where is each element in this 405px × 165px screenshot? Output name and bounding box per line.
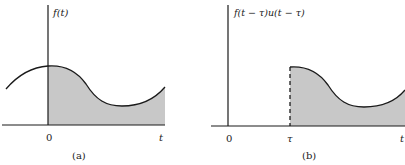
panel-b-y-label: f(t − τ)u(t − τ) [233, 7, 305, 18]
figure: f(t) 0 t (a) f(t − τ)u(t − τ) 0 τ t (b) [0, 0, 405, 165]
panel-b: f(t − τ)u(t − τ) 0 τ t (b) [211, 5, 405, 161]
panel-b-tick-tau: τ [287, 133, 293, 144]
panel-b-caption: (b) [302, 150, 316, 161]
panel-b-tick-zero: 0 [226, 133, 232, 144]
panel-a-shaded-area [48, 66, 165, 125]
panel-a-x-label: t [159, 132, 164, 143]
panel-a-caption: (a) [72, 150, 86, 161]
panel-b-shaded-area [290, 67, 405, 126]
panel-a-y-label: f(t) [52, 7, 69, 18]
panel-a: f(t) 0 t (a) [2, 5, 165, 161]
panel-b-x-label: t [400, 133, 405, 144]
panel-a-tick-zero: 0 [46, 132, 52, 143]
